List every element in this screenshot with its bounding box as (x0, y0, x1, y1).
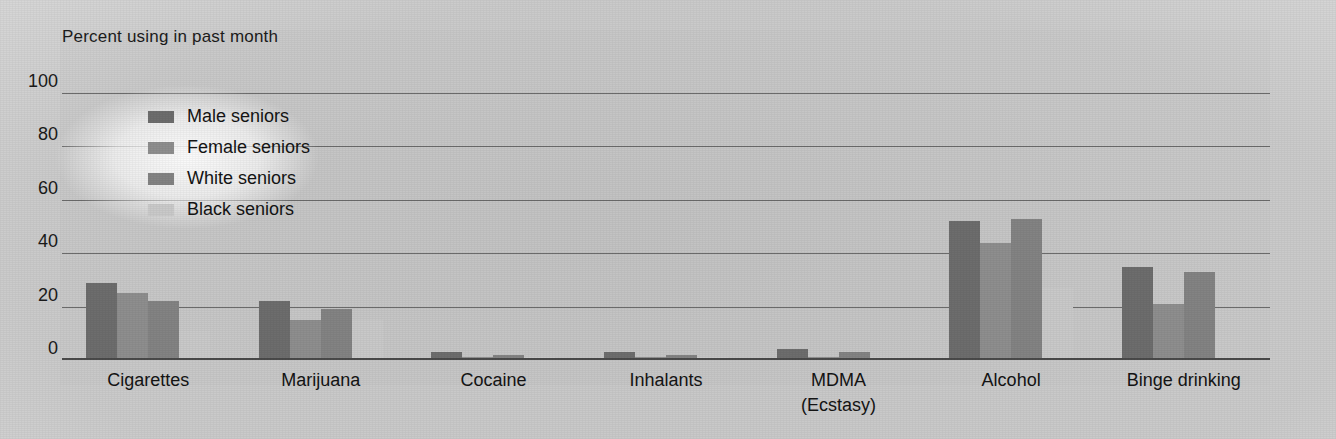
x-axis-baseline (62, 358, 1270, 360)
bar-group (949, 93, 1073, 360)
bar-group (431, 93, 555, 360)
x-axis-label: Inhalants (629, 368, 702, 393)
y-tick-label-20: 20 (0, 285, 58, 306)
bar (1122, 267, 1153, 360)
bar (321, 309, 352, 360)
legend-item: Black seniors (148, 194, 363, 225)
x-axis-label: Binge drinking (1127, 368, 1241, 393)
bar (1153, 304, 1184, 360)
x-axis-label: Marijuana (281, 368, 360, 393)
bar (949, 221, 980, 360)
bar-group (777, 93, 901, 360)
bar (179, 331, 210, 360)
bar-group (1122, 93, 1246, 360)
bar (259, 301, 290, 360)
y-tick-label-40: 40 (0, 231, 58, 252)
legend-swatch-icon (148, 204, 174, 216)
legend-label: Female seniors (187, 137, 310, 158)
bar (290, 320, 321, 360)
y-tick-label-0: 0 (0, 338, 58, 359)
bar (352, 320, 383, 360)
x-axis-category-labels: CigarettesMarijuanaCocaineInhalantsMDMA(… (62, 368, 1270, 434)
bar (117, 293, 148, 360)
y-tick-label-100: 100 (0, 71, 58, 92)
bar (1011, 219, 1042, 361)
bar (148, 301, 179, 360)
bar (1215, 336, 1246, 360)
legend-label: Black seniors (187, 199, 294, 220)
x-axis-label: MDMA(Ecstasy) (801, 368, 876, 418)
chart-title: Percent using in past month (62, 27, 278, 47)
bar-group (604, 93, 728, 360)
legend-item: White seniors (148, 163, 363, 194)
bar (980, 243, 1011, 360)
x-axis-label: Cocaine (460, 368, 526, 393)
y-tick-label-80: 80 (0, 124, 58, 145)
legend-swatch-icon (148, 142, 174, 154)
y-tick-label-60: 60 (0, 178, 58, 199)
bar (1042, 288, 1073, 360)
legend-item: Female seniors (148, 132, 363, 163)
x-axis-label: Cigarettes (107, 368, 189, 393)
legend-label: White seniors (187, 168, 296, 189)
legend-swatch-icon (148, 173, 174, 185)
legend-label: Male seniors (187, 106, 289, 127)
bar (86, 283, 117, 360)
x-axis-label: Alcohol (982, 368, 1041, 393)
legend-swatch-icon (148, 111, 174, 123)
bar (1184, 272, 1215, 360)
chart-legend: Male seniorsFemale seniorsWhite seniorsB… (148, 101, 363, 225)
legend-item: Male seniors (148, 101, 363, 132)
chart-figure: Percent using in past month 100806040200… (0, 0, 1336, 439)
